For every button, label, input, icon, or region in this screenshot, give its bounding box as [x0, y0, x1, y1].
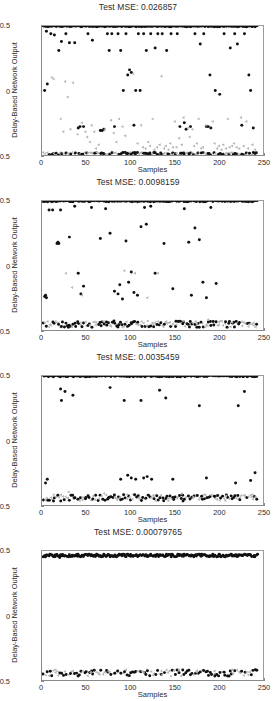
y-tick-label: 0	[0, 266, 10, 275]
panel-title: Test MSE: 0.0035459	[0, 352, 276, 362]
plot-area	[41, 375, 264, 506]
plot-panel: Test MSE: 0.00079765Delay-Based Network …	[0, 525, 276, 700]
x-axis-label: Samples	[41, 515, 264, 524]
x-tick-mark	[264, 153, 265, 156]
plot-panel: Test MSE: 0.0035459Delay-Based Network O…	[0, 350, 276, 525]
x-axis-label: Samples	[41, 165, 264, 174]
y-tick-mark	[41, 681, 44, 682]
panel-title: Test MSE: 0.00079765	[0, 527, 276, 537]
plot-panel: Test MSE: 0.0098159Delay-Based Network O…	[0, 175, 276, 350]
y-tick-label: -0.5	[0, 331, 10, 340]
y-axis-label: Delay-Based Network Output	[10, 199, 19, 331]
x-tick-mark	[264, 328, 265, 331]
scatter-canvas	[42, 376, 263, 505]
y-tick-label: 0	[0, 616, 10, 625]
y-tick-label: 0	[0, 441, 10, 450]
y-axis-label: Delay-Based Network Output	[10, 374, 19, 506]
panel-title: Test MSE: 0.0098159	[0, 177, 276, 187]
scatter-canvas	[42, 201, 263, 330]
y-tick-label: 0.5	[0, 200, 10, 209]
y-tick-label: 0.5	[0, 550, 10, 559]
plot-panel: Test MSE: 0.026857Delay-Based Network Ou…	[0, 0, 276, 175]
y-tick-mark	[41, 506, 44, 507]
y-tick-label: -0.5	[0, 681, 10, 690]
plot-area	[41, 550, 264, 681]
x-tick-mark	[264, 503, 265, 506]
y-tick-label: 0.5	[0, 375, 10, 384]
panel-title: Test MSE: 0.026857	[0, 2, 276, 12]
plot-area	[41, 25, 264, 156]
x-axis-label: Samples	[41, 690, 264, 699]
y-tick-label: -0.5	[0, 156, 10, 165]
x-tick-mark	[264, 678, 265, 681]
y-axis-label: Delay-Based Network Output	[10, 24, 19, 156]
y-tick-label: -0.5	[0, 506, 10, 515]
x-axis-label: Samples	[41, 340, 264, 349]
figure-root: Test MSE: 0.026857Delay-Based Network Ou…	[0, 0, 276, 701]
y-axis-label: Delay-Based Network Output	[10, 549, 19, 681]
plot-area	[41, 200, 264, 331]
scatter-canvas	[42, 551, 263, 680]
y-tick-label: 0.5	[0, 25, 10, 34]
y-tick-label: 0	[0, 91, 10, 100]
y-tick-mark	[41, 156, 44, 157]
scatter-canvas	[42, 26, 263, 155]
y-tick-mark	[41, 331, 44, 332]
